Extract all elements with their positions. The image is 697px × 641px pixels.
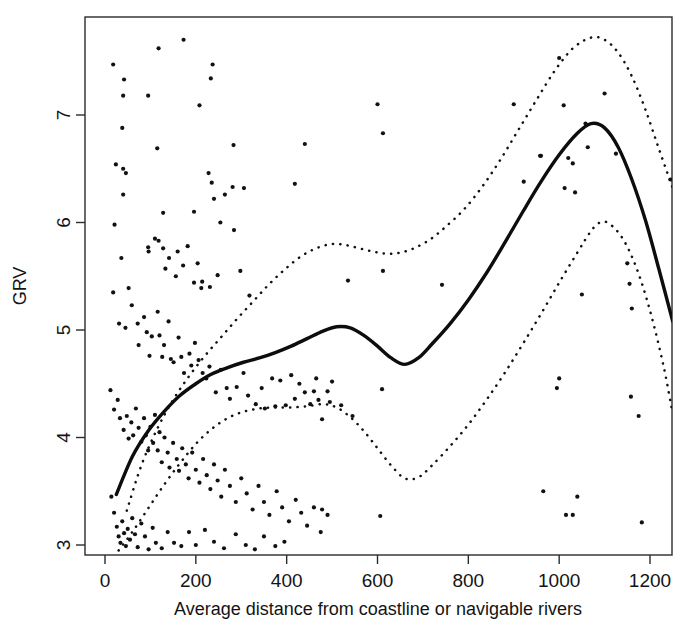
data-point bbox=[208, 487, 212, 491]
data-point bbox=[231, 185, 235, 189]
data-point bbox=[153, 413, 157, 417]
data-point bbox=[160, 355, 164, 359]
y-tick-label: 6 bbox=[53, 217, 74, 228]
data-point bbox=[171, 360, 175, 364]
data-point bbox=[602, 91, 606, 95]
data-point bbox=[145, 330, 149, 334]
data-point bbox=[346, 278, 350, 282]
data-point bbox=[156, 46, 160, 50]
data-point bbox=[228, 484, 232, 488]
data-point bbox=[312, 505, 316, 509]
data-point bbox=[381, 131, 385, 135]
data-point bbox=[150, 334, 154, 338]
data-point bbox=[156, 310, 160, 314]
data-point bbox=[136, 545, 140, 549]
data-point bbox=[254, 402, 258, 406]
data-point bbox=[129, 420, 133, 424]
data-point bbox=[312, 389, 316, 393]
data-point bbox=[196, 358, 200, 362]
data-point bbox=[207, 364, 211, 368]
data-point bbox=[440, 283, 444, 287]
data-point bbox=[179, 355, 183, 359]
data-point bbox=[212, 462, 216, 466]
lower-confidence-band-curve bbox=[119, 222, 673, 551]
data-point bbox=[219, 495, 223, 499]
data-point bbox=[640, 520, 644, 524]
data-point bbox=[223, 192, 227, 196]
data-point bbox=[194, 543, 198, 547]
data-point bbox=[146, 94, 150, 98]
data-point bbox=[350, 414, 354, 418]
fitted-curve bbox=[116, 123, 672, 494]
data-point bbox=[203, 528, 207, 532]
y-axis-ticks: 34567 bbox=[53, 110, 86, 551]
data-point bbox=[208, 285, 212, 289]
data-point bbox=[162, 343, 166, 347]
data-point bbox=[216, 273, 220, 277]
data-point bbox=[126, 527, 130, 531]
data-point bbox=[278, 378, 282, 382]
data-point bbox=[111, 290, 115, 294]
data-point bbox=[244, 543, 248, 547]
data-point bbox=[155, 146, 159, 150]
data-point bbox=[167, 466, 171, 470]
data-point bbox=[284, 403, 288, 407]
data-point bbox=[522, 180, 526, 184]
data-point bbox=[563, 186, 567, 190]
data-point bbox=[232, 228, 236, 232]
data-point bbox=[564, 513, 568, 517]
data-point bbox=[120, 519, 124, 523]
data-point bbox=[210, 181, 214, 185]
data-point bbox=[161, 211, 165, 215]
data-point bbox=[270, 376, 274, 380]
data-point bbox=[251, 507, 255, 511]
data-point bbox=[160, 546, 164, 550]
data-point bbox=[238, 269, 242, 273]
data-point bbox=[112, 511, 116, 515]
data-point bbox=[294, 498, 298, 502]
data-point bbox=[153, 237, 157, 241]
data-point bbox=[156, 239, 160, 243]
data-point bbox=[121, 192, 125, 196]
data-point bbox=[293, 182, 297, 186]
x-tick-label: 600 bbox=[362, 570, 394, 591]
data-point bbox=[151, 526, 155, 530]
data-point bbox=[206, 171, 210, 175]
data-point bbox=[218, 220, 222, 224]
data-point bbox=[147, 547, 151, 551]
data-point bbox=[189, 363, 193, 367]
data-point bbox=[122, 77, 126, 81]
data-point bbox=[234, 500, 238, 504]
data-point bbox=[297, 382, 301, 386]
data-point bbox=[163, 267, 167, 271]
data-point bbox=[187, 530, 191, 534]
x-axis-title: Average distance from coastline or navig… bbox=[174, 599, 582, 619]
data-point bbox=[614, 152, 618, 156]
data-point bbox=[201, 457, 205, 461]
data-point bbox=[245, 491, 249, 495]
data-point bbox=[157, 430, 161, 434]
data-point bbox=[186, 476, 190, 480]
data-point bbox=[253, 547, 257, 551]
data-point bbox=[234, 532, 238, 536]
data-point bbox=[117, 321, 121, 325]
data-point bbox=[187, 352, 191, 356]
data-point bbox=[154, 541, 158, 545]
data-point bbox=[330, 380, 334, 384]
x-axis-ticks: 020040060080010001200 bbox=[100, 555, 671, 591]
data-point bbox=[146, 448, 150, 452]
data-point bbox=[273, 544, 277, 548]
scatter-plot-svg: 020040060080010001200 34567 Average dist… bbox=[0, 0, 697, 641]
data-point bbox=[161, 246, 165, 250]
data-point bbox=[200, 280, 204, 284]
data-point bbox=[130, 516, 134, 520]
chart-series-layer bbox=[108, 37, 672, 551]
data-point bbox=[139, 521, 143, 525]
data-point bbox=[282, 540, 286, 544]
data-point bbox=[303, 390, 307, 394]
data-point bbox=[275, 489, 279, 493]
data-point bbox=[177, 469, 181, 473]
data-point bbox=[299, 511, 303, 515]
data-point bbox=[637, 414, 641, 418]
data-point bbox=[267, 513, 271, 517]
